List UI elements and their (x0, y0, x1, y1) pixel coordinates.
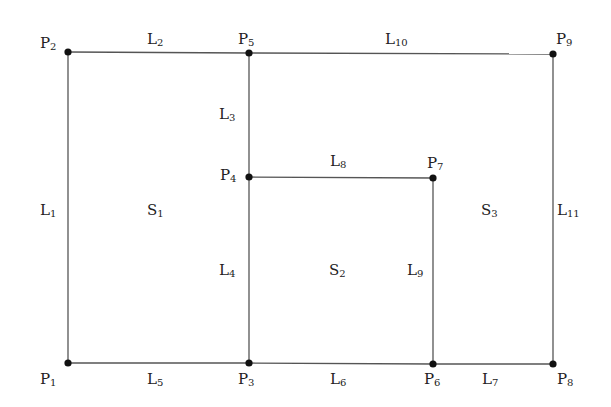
label-base: S (329, 261, 339, 279)
label-subscript: 10 (395, 37, 408, 48)
point-label-p6: P6 (424, 372, 440, 388)
label-base: P (238, 30, 248, 48)
label-base: L (557, 201, 567, 219)
line-label-l7: L7 (482, 372, 498, 388)
label-subscript: 3 (229, 112, 235, 123)
label-base: L (385, 30, 395, 48)
label-subscript: 9 (566, 37, 572, 48)
label-base: L (219, 261, 229, 279)
line-l2 (68, 52, 249, 53)
label-base: L (407, 261, 417, 279)
label-subscript: 6 (434, 377, 440, 388)
line-label-l5: L5 (147, 372, 163, 388)
label-subscript: 11 (567, 208, 580, 219)
label-subscript: 2 (50, 41, 56, 52)
line-label-l1: L1 (40, 203, 56, 219)
line-label-l2: L2 (147, 32, 163, 48)
point-p8 (549, 360, 556, 367)
label-base: P (40, 370, 50, 388)
label-subscript: 3 (248, 377, 254, 388)
label-base: P (238, 370, 248, 388)
diagram-canvas (0, 0, 611, 407)
point-p1 (64, 359, 71, 366)
line-label-l8: L8 (330, 154, 346, 170)
line-l8 (249, 177, 433, 178)
label-base: P (424, 370, 434, 388)
point-label-p9: P9 (556, 32, 572, 48)
label-base: S (481, 201, 491, 219)
label-subscript: 4 (230, 173, 236, 184)
geometry-diagram: P1P2P3P4P5P6P7P8P9L1L2L3L4L5L6L7L8L9L10L… (0, 0, 611, 407)
point-p9 (549, 50, 556, 57)
surface-label-s1: S1 (147, 203, 164, 219)
surface-label-s2: S2 (329, 263, 346, 279)
point-label-p1: P1 (40, 372, 56, 388)
label-base: P (220, 166, 230, 184)
point-label-p2: P2 (40, 36, 56, 52)
label-subscript: 7 (437, 161, 443, 172)
surface-label-s3: S3 (481, 203, 498, 219)
label-subscript: 2 (339, 268, 345, 279)
label-subscript: 1 (50, 377, 56, 388)
point-label-p8: P8 (557, 372, 573, 388)
label-base: P (40, 34, 50, 52)
point-label-p3: P3 (238, 372, 254, 388)
label-base: L (482, 370, 492, 388)
line-label-l9: L9 (407, 263, 423, 279)
label-subscript: 1 (50, 208, 56, 219)
line-label-l4: L4 (219, 263, 235, 279)
line-l10 (249, 53, 553, 54)
label-subscript: 2 (157, 37, 163, 48)
line-label-l6: L6 (330, 372, 346, 388)
label-base: L (330, 152, 340, 170)
point-p7 (429, 174, 436, 181)
label-base: S (147, 201, 157, 219)
label-subscript: 8 (340, 159, 346, 170)
point-p2 (64, 48, 71, 55)
label-base: L (40, 201, 50, 219)
label-base: L (147, 370, 157, 388)
label-base: L (147, 30, 157, 48)
label-subscript: 7 (492, 377, 498, 388)
point-p5 (245, 49, 252, 56)
line-label-l10: L10 (385, 32, 408, 48)
line-l6 (249, 363, 433, 364)
label-subscript: 1 (157, 208, 163, 219)
label-subscript: 3 (491, 208, 497, 219)
line-label-l3: L3 (219, 107, 235, 123)
label-subscript: 5 (248, 37, 254, 48)
label-subscript: 8 (567, 377, 573, 388)
label-subscript: 6 (340, 377, 346, 388)
point-label-p5: P5 (238, 32, 254, 48)
point-p4 (245, 173, 252, 180)
point-p3 (245, 359, 252, 366)
label-base: P (557, 370, 567, 388)
label-base: L (330, 370, 340, 388)
point-label-p7: P7 (427, 156, 443, 172)
label-subscript: 9 (417, 268, 423, 279)
label-subscript: 4 (229, 268, 235, 279)
point-label-p4: P4 (220, 168, 236, 184)
label-subscript: 5 (157, 377, 163, 388)
line-label-l11: L11 (557, 203, 580, 219)
label-base: L (219, 105, 229, 123)
point-p6 (429, 360, 436, 367)
label-base: P (556, 30, 566, 48)
label-base: P (427, 154, 437, 172)
